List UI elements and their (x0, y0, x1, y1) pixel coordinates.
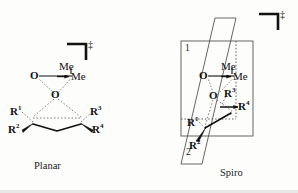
planar-r3-base: R (90, 105, 98, 117)
spiro-r3-label: R3 (224, 88, 235, 99)
spiro-r1-sup: 1 (195, 115, 199, 123)
planar-r4-base: R (92, 123, 100, 135)
spiro-oxygen-center-label: O (209, 90, 218, 101)
planar-r2-base: R (8, 123, 16, 135)
planar-oxygen-left-label: O (30, 70, 39, 81)
planar-double-dagger: ‡ (88, 40, 93, 50)
spiro-r2-base: R (189, 139, 197, 151)
spiro-r3-sup: 3 (232, 86, 236, 94)
planar-r1-base: R (10, 105, 18, 117)
planar-r4-sup: 4 (100, 122, 104, 130)
spiro-plane-one-number: 1 (185, 44, 190, 54)
spiro-r2-sup: 2 (197, 138, 201, 146)
spiro-r1-label: R1 (187, 117, 198, 128)
spiro-r1-base: R (187, 116, 195, 128)
spiro-r2-label: R2 (189, 140, 200, 151)
planar-methyl-side-label: Me (71, 71, 86, 82)
planar-caption: Planar (34, 161, 61, 172)
planar-r4-label: R4 (92, 124, 103, 135)
planar-alkene-skeleton (22, 112, 93, 132)
planar-forming-bonds (33, 99, 81, 118)
planar-ts-bracket (67, 44, 86, 60)
planar-oxygen-center-label: O (51, 89, 60, 100)
planar-r2-sup: 2 (16, 122, 20, 130)
spiro-double-dagger: ‡ (280, 10, 285, 20)
bottom-edge-artifact (0, 190, 298, 193)
spiro-caption: Spiro (220, 168, 243, 179)
planar-r2-label: R2 (8, 124, 19, 135)
spiro-r4-base: R (238, 100, 246, 112)
spiro-ts-bracket (259, 14, 278, 30)
planar-r1-sup: 1 (18, 104, 22, 112)
planar-r1-label: R1 (10, 106, 21, 117)
spiro-r4-label: R4 (238, 101, 249, 112)
spiro-oxygen-left-label: O (199, 70, 208, 81)
figure-root: ‡ Me Me O O R1 R2 R3 R4 Planar ‡ 1 2 Me … (0, 0, 298, 193)
planar-r3-sup: 3 (98, 104, 102, 112)
spiro-r3-base: R (224, 87, 232, 99)
planar-r3-label: R3 (90, 106, 101, 117)
spiro-methyl-side-label: Me (233, 71, 248, 82)
spiro-r4-sup: 4 (246, 99, 250, 107)
